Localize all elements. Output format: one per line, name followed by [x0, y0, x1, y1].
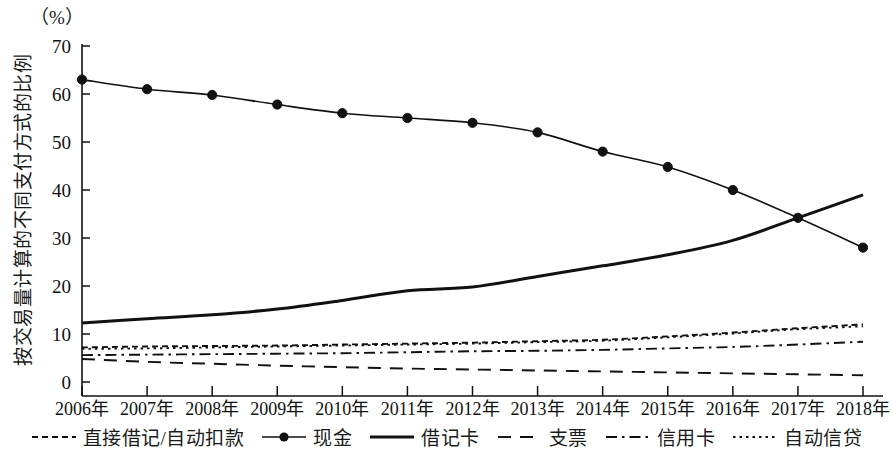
x-tick-label: 2010年: [315, 399, 369, 419]
x-tick-label: 2008年: [185, 399, 239, 419]
y-tick-label: 50: [52, 132, 71, 153]
x-tick-label: 2012年: [446, 399, 500, 419]
legend: 直接借记/自动扣款现金借记卡支票信用卡自动信贷: [0, 423, 893, 450]
data-point-marker: [533, 128, 542, 137]
y-tick-label: 10: [52, 324, 71, 345]
y-tick-label: 70: [52, 36, 71, 57]
data-point-marker: [728, 185, 737, 194]
data-point-marker: [598, 147, 607, 156]
legend-swatch-icon: [369, 429, 415, 445]
x-tick-label: 2016年: [706, 399, 760, 419]
y-tick-label: 30: [52, 228, 71, 249]
data-point-marker: [338, 109, 347, 118]
data-point-marker: [403, 113, 412, 122]
legend-label: 信用卡: [657, 423, 716, 450]
series-5: [82, 326, 863, 349]
data-point-marker: [208, 90, 217, 99]
y-tick-label: 0: [62, 372, 72, 393]
data-point-marker: [77, 75, 86, 84]
series-2: [82, 195, 863, 323]
legend-swatch-icon: [497, 429, 543, 445]
legend-item[interactable]: 直接借记/自动扣款: [31, 423, 245, 450]
chart-container: （%） 按交易量计算的不同支付方式的比例 010203040506070 200…: [0, 0, 893, 457]
x-tick-label: 2017年: [771, 399, 825, 419]
y-tick-label: 40: [52, 180, 71, 201]
x-axis: 2006年2007年2008年2009年2010年2011年2012年2013年…: [55, 386, 890, 419]
legend-label: 借记卡: [421, 423, 480, 450]
legend-swatch-icon: [31, 429, 77, 445]
legend-swatch-icon: [261, 429, 307, 445]
series-line: [82, 80, 863, 248]
legend-item[interactable]: 现金: [261, 423, 352, 450]
x-tick-label: 2013年: [511, 399, 565, 419]
x-tick-label: 2011年: [381, 399, 434, 419]
y-axis: 010203040506070: [52, 36, 90, 396]
x-tick-label: 2009年: [250, 399, 304, 419]
legend-label: 自动信贷: [784, 423, 862, 450]
legend-item[interactable]: 支票: [497, 423, 588, 450]
series-3: [82, 359, 863, 375]
x-tick-label: 2018年: [836, 399, 890, 419]
series-1: [77, 75, 867, 252]
data-point-marker: [663, 162, 672, 171]
data-point-marker: [858, 243, 867, 252]
legend-label: 直接借记/自动扣款: [83, 423, 245, 450]
x-tick-label: 2014年: [576, 399, 630, 419]
data-point-marker: [468, 118, 477, 127]
legend-label: 现金: [313, 423, 352, 450]
plot-area: 010203040506070 2006年2007年2008年2009年2010…: [0, 0, 893, 420]
legend-item[interactable]: 自动信贷: [732, 423, 862, 450]
series-line: [82, 195, 863, 323]
legend-item[interactable]: 借记卡: [369, 423, 480, 450]
y-tick-label: 60: [52, 84, 71, 105]
legend-item[interactable]: 信用卡: [605, 423, 716, 450]
legend-swatch-icon: [605, 429, 651, 445]
legend-swatch-icon: [732, 429, 778, 445]
y-tick-label: 20: [52, 276, 71, 297]
series-line: [82, 359, 863, 375]
legend-label: 支票: [549, 423, 588, 450]
x-tick-label: 2015年: [641, 399, 695, 419]
series-line: [82, 326, 863, 349]
x-tick-label: 2006年: [55, 399, 109, 419]
series-layer: [77, 75, 867, 375]
x-tick-label: 2007年: [120, 399, 174, 419]
data-point-marker: [273, 100, 282, 109]
data-point-marker: [142, 85, 151, 94]
